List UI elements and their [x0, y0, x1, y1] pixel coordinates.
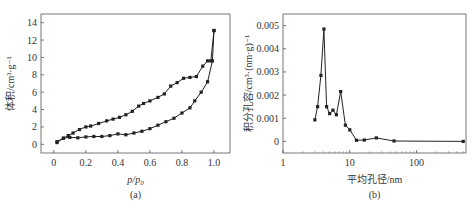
data-marker: [193, 99, 196, 102]
data-marker: [325, 105, 328, 108]
y-tick-label: 0: [32, 139, 37, 150]
data-marker: [140, 130, 143, 133]
data-marker: [142, 102, 145, 105]
data-marker: [132, 131, 135, 134]
x-tick-label: 0.2: [80, 157, 93, 168]
data-marker: [124, 113, 127, 116]
data-marker: [148, 127, 151, 130]
chart-b: 00.0010.0020.0030.0040.005110100平均孔径/nm积…: [242, 14, 466, 201]
y-tick-label: 6: [32, 87, 37, 98]
y-axis-label: 积分孔容/cm³·(nm·g)⁻¹: [242, 35, 255, 132]
data-marker: [131, 110, 134, 113]
y-tick-label: 0: [274, 136, 279, 147]
data-marker: [316, 105, 319, 108]
data-marker: [78, 128, 81, 131]
data-marker: [180, 111, 183, 114]
data-marker: [335, 113, 338, 116]
data-marker: [201, 65, 204, 68]
data-marker: [375, 136, 378, 139]
data-marker: [164, 120, 167, 123]
data-marker: [62, 137, 65, 140]
data-marker: [331, 109, 334, 112]
data-marker: [339, 90, 342, 93]
data-marker: [84, 135, 87, 138]
data-marker: [124, 133, 127, 136]
y-tick-label: 0.005: [257, 20, 280, 31]
data-marker: [100, 135, 103, 138]
y-tick-label: 14: [27, 17, 37, 28]
y-tick-label: 10: [27, 52, 37, 63]
data-marker: [392, 139, 395, 142]
data-marker: [89, 124, 92, 127]
data-marker: [108, 134, 111, 137]
data-marker: [328, 112, 331, 115]
x-tick-label: 1: [281, 157, 286, 168]
data-marker: [92, 135, 95, 138]
data-marker: [169, 85, 172, 88]
data-marker: [118, 116, 121, 119]
data-marker: [84, 125, 87, 128]
series-line: [57, 31, 214, 142]
series-line: [315, 29, 463, 141]
data-marker: [322, 27, 325, 30]
data-marker: [188, 106, 191, 109]
data-marker: [363, 138, 366, 141]
y-axis-label: 体积/cm³·g⁻¹: [5, 56, 16, 111]
data-marker: [188, 76, 191, 79]
data-marker: [344, 124, 347, 127]
x-axis-label: p/p0: [126, 174, 144, 187]
panel-caption: (b): [369, 189, 381, 201]
data-marker: [195, 75, 198, 78]
x-tick-label: 0: [51, 157, 56, 168]
data-marker: [67, 134, 70, 137]
y-tick-label: 12: [27, 35, 37, 46]
data-marker: [105, 119, 108, 122]
data-marker: [212, 29, 215, 32]
x-tick-label: 100: [409, 157, 424, 168]
data-marker: [209, 59, 212, 62]
x-tick-label: 0.6: [144, 157, 157, 168]
x-tick-label: 1.0: [208, 157, 221, 168]
panel-caption: (a): [130, 189, 141, 201]
data-marker: [200, 91, 203, 94]
x-tick-label: 0.8: [176, 157, 189, 168]
x-tick-label: 10: [345, 157, 355, 168]
data-marker: [156, 124, 159, 127]
data-marker: [206, 59, 209, 62]
data-marker: [172, 117, 175, 120]
x-axis-label: 平均孔径/nm: [347, 173, 403, 185]
data-marker: [71, 131, 74, 134]
data-marker: [111, 118, 114, 121]
data-marker: [137, 104, 140, 107]
y-tick-label: 0.001: [257, 113, 280, 124]
y-tick-label: 0.004: [257, 43, 280, 54]
data-marker: [319, 74, 322, 77]
data-marker: [176, 81, 179, 84]
plot-frame: [283, 14, 466, 153]
data-marker: [462, 140, 465, 143]
y-tick-label: 4: [32, 104, 37, 115]
data-marker: [97, 122, 100, 125]
chart-a: 0246810121400.20.40.60.81.0p/p0体积/cm³·g⁻…: [5, 14, 230, 201]
data-marker: [76, 136, 79, 139]
data-marker: [206, 80, 209, 83]
data-marker: [163, 92, 166, 95]
data-marker: [156, 96, 159, 99]
data-marker: [55, 140, 58, 143]
data-marker: [348, 128, 351, 131]
data-marker: [182, 77, 185, 80]
x-tick-label: 0.4: [112, 157, 125, 168]
data-marker: [313, 118, 316, 121]
data-marker: [116, 132, 119, 135]
y-tick-label: 8: [32, 69, 37, 80]
y-tick-label: 2: [32, 121, 37, 132]
series-line: [57, 31, 214, 143]
data-marker: [355, 139, 358, 142]
y-tick-label: 0.002: [257, 90, 280, 101]
data-marker: [148, 99, 151, 102]
y-tick-label: 0.003: [257, 66, 280, 77]
figure: 0246810121400.20.40.60.81.0p/p0体积/cm³·g⁻…: [0, 0, 476, 208]
